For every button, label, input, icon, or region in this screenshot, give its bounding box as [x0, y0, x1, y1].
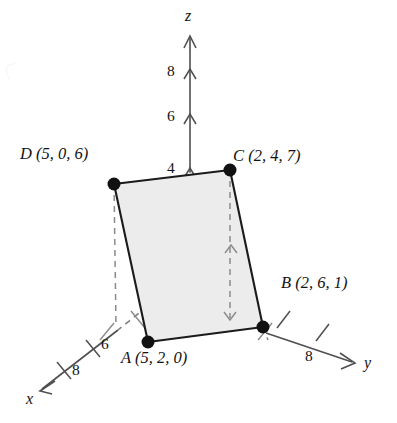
y-tick-label-8: 8 — [305, 348, 313, 364]
point-label-C-text: C (2, 4, 7) — [233, 146, 300, 165]
x-axis-label: x — [26, 391, 33, 407]
point-label-D: D (5, 0, 6) — [20, 146, 88, 163]
y-axis-label: y — [364, 355, 371, 371]
diagram-canvas — [0, 0, 397, 423]
x-tick-label-8: 8 — [72, 362, 80, 378]
point-label-C: C (2, 4, 7) — [233, 148, 300, 165]
point-label-B: B (2, 6, 1) — [281, 275, 347, 292]
z-tick-label-6: 6 — [167, 108, 175, 124]
vertex-dot-A — [142, 336, 155, 349]
vertex-dot-B — [257, 321, 270, 334]
z-axis-label: z — [185, 8, 191, 24]
x-tick-label-6: 6 — [101, 336, 109, 352]
point-label-D-text: D (5, 0, 6) — [20, 144, 88, 163]
quadrilateral-face — [114, 170, 263, 342]
z-tick-label-4: 4 — [167, 160, 175, 176]
vertex-dot-C — [224, 164, 237, 177]
z-tick-label-8: 8 — [167, 63, 175, 79]
z-axis — [184, 36, 196, 178]
point-label-B-text: B (2, 6, 1) — [281, 273, 347, 292]
vertex-dot-D — [108, 178, 121, 191]
point-label-A-text: A (5, 2, 0) — [121, 348, 187, 367]
coordinate-diagram-figure: D (5, 0, 6) C (2, 4, 7) B (2, 6, 1) A (5… — [0, 0, 397, 423]
point-label-A: A (5, 2, 0) — [121, 350, 187, 367]
